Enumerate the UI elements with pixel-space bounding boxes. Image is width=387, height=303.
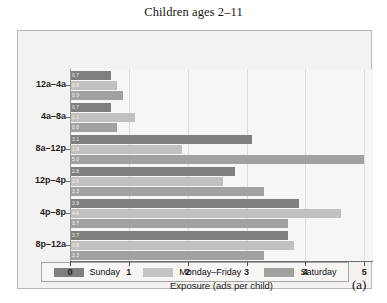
x-axis-tick-label: 3 — [235, 267, 259, 277]
plot-area-inner: 12a–4a0.70.80.94a–8a0.71.10.88a–12p3.11.… — [70, 69, 373, 261]
bar: 3.9 — [70, 199, 299, 208]
bar-value-label: 0.9 — [72, 91, 79, 100]
y-axis-category-label: 4a–8a — [21, 111, 66, 121]
legend-swatch-saturday — [264, 268, 294, 277]
x-axis-tick-label: 5 — [352, 267, 376, 277]
bar-value-label: 5.0 — [72, 155, 79, 164]
x-axis-tick — [129, 262, 130, 266]
bar: 3.3 — [70, 187, 264, 196]
legend-label-sunday: Sunday — [90, 267, 121, 277]
gridline — [364, 69, 365, 261]
bar: 5.0 — [70, 155, 364, 164]
bar: 0.8 — [70, 123, 117, 132]
bar-value-label: 1.1 — [72, 113, 79, 122]
x-axis-tick — [247, 262, 248, 266]
bar-value-label: 3.9 — [72, 199, 79, 208]
bar-value-label: 0.8 — [72, 81, 79, 90]
gridline — [305, 69, 306, 261]
y-axis-category-label: 12a–4a — [21, 79, 66, 89]
x-axis-tick-label: 0 — [58, 267, 82, 277]
bar: 4.6 — [70, 209, 341, 218]
figure-panel: Children ages 2–11 12a–4a0.70.80.94a–8a0… — [0, 0, 387, 303]
panel-letter: (a) — [352, 277, 366, 293]
chart-title: Children ages 2–11 — [0, 5, 387, 20]
x-axis-tick — [305, 262, 306, 266]
bar: 3.7 — [70, 219, 288, 228]
bar: 3.1 — [70, 135, 252, 144]
y-axis-category-label: 8a–12p — [21, 143, 66, 153]
x-axis-tick-label: 1 — [117, 267, 141, 277]
x-axis-tick — [70, 262, 71, 266]
bar: 0.9 — [70, 91, 123, 100]
y-axis-category-label: 4p–8p — [21, 207, 66, 217]
bar-value-label: 4.6 — [72, 209, 79, 218]
bar: 1.1 — [70, 113, 135, 122]
plot-card: 12a–4a0.70.80.94a–8a0.71.10.88a–12p3.11.… — [17, 30, 372, 289]
x-axis-tick — [364, 262, 365, 266]
bar-value-label: 3.3 — [72, 187, 79, 196]
bar: 3.7 — [70, 231, 288, 240]
bar-value-label: 2.6 — [72, 177, 79, 186]
bar: 3.3 — [70, 251, 264, 260]
plot-area: 12a–4a0.70.80.94a–8a0.71.10.88a–12p3.11.… — [70, 69, 373, 261]
bar: 0.7 — [70, 71, 111, 80]
bar-value-label: 0.7 — [72, 71, 79, 80]
x-axis-tick — [188, 262, 189, 266]
bar-value-label: 0.7 — [72, 103, 79, 112]
bar: 1.9 — [70, 145, 182, 154]
bar-value-label: 3.3 — [72, 251, 79, 260]
x-axis-tick-label: 4 — [293, 267, 317, 277]
bar: 3.8 — [70, 241, 294, 250]
bar: 2.8 — [70, 167, 235, 176]
bar: 2.6 — [70, 177, 223, 186]
y-axis-category-label: 8p–12a — [21, 239, 66, 249]
x-axis-tick-label: 2 — [176, 267, 200, 277]
bar-value-label: 0.8 — [72, 123, 79, 132]
bar-value-label: 3.7 — [72, 219, 79, 228]
bar-value-label: 2.8 — [72, 167, 79, 176]
bar-value-label: 3.8 — [72, 241, 79, 250]
y-axis-line — [70, 69, 71, 261]
legend-swatch-monday-friday — [143, 268, 173, 277]
bar: 0.8 — [70, 81, 117, 90]
bar: 0.7 — [70, 103, 111, 112]
bar-value-label: 3.1 — [72, 135, 79, 144]
y-axis-category-label: 12p–4p — [21, 175, 66, 185]
bar-value-label: 3.7 — [72, 231, 79, 240]
bar-value-label: 1.9 — [72, 145, 79, 154]
